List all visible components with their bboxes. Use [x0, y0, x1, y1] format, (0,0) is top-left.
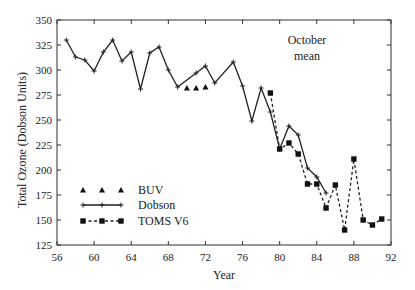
y-tick-label: 275 — [36, 89, 53, 101]
x-tick-label: 76 — [237, 251, 249, 263]
plus-marker — [166, 68, 171, 73]
legend-label: BUV — [138, 183, 164, 197]
plot-series — [64, 38, 385, 233]
legend-item-toms-v6: TOMS V6 — [80, 214, 188, 228]
y-tick-label: 150 — [36, 214, 53, 226]
plus-marker — [259, 86, 264, 91]
x-tick-label: 88 — [348, 251, 360, 263]
square-marker — [342, 227, 347, 232]
square-marker — [379, 216, 384, 221]
plus-marker — [268, 110, 273, 115]
square-marker — [296, 151, 301, 156]
plus-marker — [81, 203, 86, 208]
square-marker — [118, 218, 123, 223]
y-tick-label: 225 — [36, 139, 53, 151]
series-toms-v6 — [268, 90, 385, 232]
square-marker — [277, 146, 282, 151]
ozone-chart: 56606468727680848892 1251501752002252502… — [0, 0, 415, 290]
square-marker — [286, 140, 291, 145]
square-marker — [80, 218, 85, 223]
legend-label: TOMS V6 — [138, 214, 189, 228]
y-tick-label: 300 — [36, 64, 53, 76]
plus-marker — [138, 87, 143, 92]
x-tick-label: 92 — [386, 251, 397, 263]
square-marker — [333, 182, 338, 187]
series-dobson — [64, 38, 329, 196]
legend-item-dobson: Dobson — [81, 198, 176, 212]
y-axis-label: Total Ozone (Dobson Units) — [15, 72, 29, 208]
annotation-line-2: mean — [294, 49, 320, 63]
y-axis-ticks: 125150175200225250275300325350 — [36, 14, 392, 251]
annotation-line-1: October — [288, 33, 327, 47]
square-marker — [360, 217, 365, 222]
triangle-marker — [118, 187, 124, 193]
legend-label: Dobson — [138, 198, 175, 212]
square-marker — [314, 181, 319, 186]
x-tick-label: 72 — [200, 251, 211, 263]
x-axis-label: Year — [213, 268, 235, 282]
legend-item-buv: BUV — [80, 183, 164, 197]
square-marker — [323, 205, 328, 210]
square-marker — [370, 222, 375, 227]
x-tick-label: 60 — [89, 251, 101, 263]
y-tick-label: 325 — [36, 39, 53, 51]
plus-marker — [249, 119, 254, 124]
plus-marker — [100, 203, 105, 208]
y-tick-label: 250 — [36, 114, 53, 126]
plus-marker — [64, 38, 69, 43]
triangle-marker — [184, 85, 190, 91]
x-tick-label: 80 — [274, 251, 286, 263]
legend: BUVDobsonTOMS V6 — [80, 183, 189, 228]
y-tick-label: 175 — [36, 189, 53, 201]
square-marker — [268, 90, 273, 95]
y-tick-label: 200 — [36, 164, 53, 176]
series-buv — [184, 84, 209, 91]
square-marker — [351, 156, 356, 161]
x-tick-label: 68 — [163, 251, 175, 263]
plus-marker — [240, 84, 245, 89]
triangle-marker — [80, 187, 86, 193]
plus-marker — [119, 203, 124, 208]
dobson-line — [66, 40, 326, 193]
y-tick-label: 125 — [36, 239, 53, 251]
triangle-marker — [193, 85, 199, 91]
x-tick-label: 56 — [52, 251, 64, 263]
triangle-marker — [99, 187, 105, 193]
x-tick-label: 84 — [311, 251, 323, 263]
triangle-marker — [202, 84, 208, 90]
x-tick-label: 64 — [126, 251, 138, 263]
plus-marker — [73, 55, 78, 60]
y-tick-label: 350 — [36, 14, 53, 26]
square-marker — [305, 181, 310, 186]
square-marker — [99, 218, 104, 223]
